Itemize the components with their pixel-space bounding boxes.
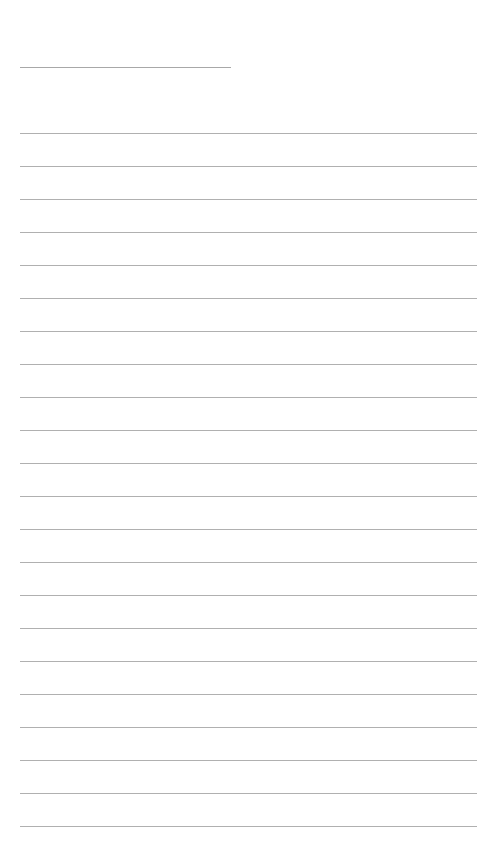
- ruled-line: [20, 199, 477, 200]
- ruled-line: [20, 727, 477, 728]
- ruled-line: [20, 694, 477, 695]
- ruled-line: [20, 463, 477, 464]
- ruled-line: [20, 628, 477, 629]
- ruled-line: [20, 298, 477, 299]
- ruled-line: [20, 397, 477, 398]
- ruled-line: [20, 232, 477, 233]
- ruled-line: [20, 364, 477, 365]
- ruled-line: [20, 595, 477, 596]
- ruled-line: [20, 562, 477, 563]
- ruled-line: [20, 331, 477, 332]
- ruled-line: [20, 265, 477, 266]
- ruled-line: [20, 826, 477, 827]
- ruled-line: [20, 496, 477, 497]
- ruled-lines: [20, 133, 477, 857]
- ruled-line: [20, 529, 477, 530]
- ruled-line: [20, 793, 477, 794]
- ruled-line: [20, 133, 477, 134]
- ruled-line: [20, 661, 477, 662]
- ruled-line: [20, 430, 477, 431]
- ruled-line: [20, 166, 477, 167]
- header-title-line: [20, 67, 231, 68]
- ruled-line: [20, 760, 477, 761]
